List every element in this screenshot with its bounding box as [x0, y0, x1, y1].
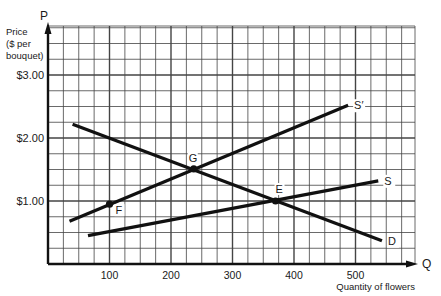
- point-label: G: [189, 152, 198, 164]
- y-axis-symbol: P: [40, 9, 48, 23]
- curve-label: S′: [354, 99, 363, 111]
- chart-axes: [45, 22, 419, 268]
- y-tick-label: $3.00: [16, 69, 44, 81]
- x-tick-label: 300: [224, 269, 242, 281]
- point-marker: [190, 165, 197, 172]
- point-label: E: [276, 183, 283, 195]
- y-axis-label-line-1: Price: [6, 26, 28, 37]
- x-axis-arrow-icon: [406, 261, 418, 268]
- x-tick-labels: 100200300400500: [101, 269, 365, 281]
- curve-label: D: [388, 235, 396, 247]
- labeled-points: FGE: [106, 152, 285, 216]
- chart-grid: [48, 26, 415, 264]
- y-axis-label-line-2: ($ per: [6, 38, 31, 49]
- x-axis-label: Quantity of flowers: [336, 281, 415, 292]
- y-tick-label: $2.00: [16, 132, 44, 144]
- curve-label: S: [384, 175, 391, 187]
- supply-demand-chart: P Q Price ($ per bouquet) Quantity of fl…: [0, 0, 441, 296]
- point-marker: [272, 197, 279, 204]
- y-tick-labels: $1.00$2.00$3.00: [16, 69, 44, 207]
- x-tick-label: 100: [101, 269, 119, 281]
- curve-d: [73, 124, 382, 241]
- x-tick-label: 400: [285, 269, 303, 281]
- x-axis-symbol: Q: [422, 257, 431, 271]
- x-tick-label: 500: [347, 269, 365, 281]
- y-tick-label: $1.00: [16, 195, 44, 207]
- point-label: F: [116, 204, 123, 216]
- x-tick-label: 200: [162, 269, 180, 281]
- curves: DSS′: [70, 99, 399, 247]
- point-marker: [106, 201, 113, 208]
- y-axis-label-line-3: bouquet): [6, 50, 44, 61]
